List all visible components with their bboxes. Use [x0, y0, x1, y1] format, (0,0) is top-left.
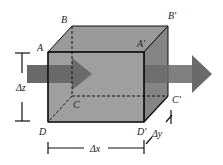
- box-front-face: [48, 52, 144, 122]
- vertex-label-a: A: [36, 42, 44, 53]
- vertex-label-a-prime: A': [136, 38, 146, 49]
- dx-label: Δx: [89, 143, 101, 154]
- vertex-label-d: D: [38, 126, 47, 137]
- vertex-label-c: C: [73, 99, 80, 110]
- control-volume-diagram: A B A' B' C C' D D' Δz Δx Δy: [0, 0, 223, 165]
- dz-label: Δz: [15, 82, 26, 93]
- vertex-label-c-prime: C': [172, 94, 182, 105]
- vertex-label-b: B: [61, 14, 67, 25]
- vertex-label-b-prime: B': [168, 10, 177, 21]
- vertex-label-d-prime: D': [136, 126, 147, 137]
- dy-label: Δy: [151, 128, 163, 139]
